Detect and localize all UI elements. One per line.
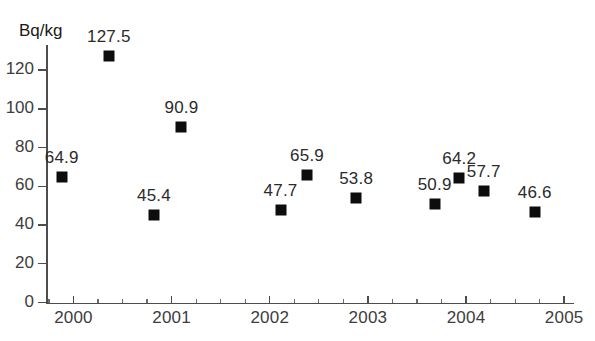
- x-tick-2001: [171, 296, 172, 303]
- y-axis-line: [46, 45, 48, 304]
- x-tick-label-2005: 2005: [545, 308, 584, 328]
- data-point-marker: [56, 171, 67, 182]
- x-tick-label-2003: 2003: [349, 308, 388, 328]
- scatter-chart: Bq/kg 020406080100120 200020012002200320…: [0, 0, 595, 341]
- x-tick-minor: [539, 299, 540, 303]
- data-point-marker: [529, 207, 540, 218]
- data-point-label: 64.9: [45, 148, 79, 168]
- y-tick-20: [38, 263, 46, 264]
- x-axis-line: [46, 303, 574, 305]
- x-tick-label-2001: 2001: [152, 308, 191, 328]
- y-tick-0: [38, 302, 46, 303]
- x-tick-minor: [97, 299, 98, 303]
- x-tick-2004: [465, 296, 466, 303]
- x-tick-minor: [318, 299, 319, 303]
- y-tick-label-100: 100: [0, 98, 34, 118]
- data-point-label: 57.7: [467, 162, 501, 182]
- data-point-marker: [148, 209, 159, 220]
- x-tick-minor: [416, 299, 417, 303]
- data-point-label: 127.5: [87, 27, 131, 47]
- x-tick-minor: [490, 299, 491, 303]
- x-tick-2002: [269, 296, 270, 303]
- y-tick-40: [38, 224, 46, 225]
- y-tick-120: [38, 69, 46, 70]
- x-tick-minor: [392, 299, 393, 303]
- data-point-label: 46.6: [518, 183, 552, 203]
- x-tick-minor: [48, 299, 49, 303]
- x-tick-minor: [441, 299, 442, 303]
- y-axis-unit-label: Bq/kg: [19, 21, 62, 41]
- data-point-label: 50.9: [418, 175, 452, 195]
- x-tick-label-2000: 2000: [54, 308, 93, 328]
- x-tick-minor: [294, 299, 295, 303]
- x-tick-minor: [146, 299, 147, 303]
- x-tick-minor: [196, 299, 197, 303]
- x-tick-minor: [245, 299, 246, 303]
- x-tick-minor: [343, 299, 344, 303]
- x-tick-minor: [122, 299, 123, 303]
- data-point-marker: [478, 185, 489, 196]
- x-tick-2005: [563, 296, 564, 303]
- x-tick-minor: [220, 299, 221, 303]
- data-point-marker: [275, 205, 286, 216]
- y-tick-label-40: 40: [0, 214, 34, 234]
- y-tick-label-80: 80: [0, 137, 34, 157]
- data-point-marker: [454, 173, 465, 184]
- x-tick-label-2002: 2002: [250, 308, 289, 328]
- data-point-marker: [176, 121, 187, 132]
- data-point-label: 90.9: [164, 98, 198, 118]
- data-point-marker: [429, 198, 440, 209]
- x-tick-label-2004: 2004: [447, 308, 486, 328]
- y-tick-label-0: 0: [0, 292, 34, 312]
- y-tick-label-120: 120: [0, 59, 34, 79]
- data-point-label: 45.4: [137, 186, 171, 206]
- y-tick-label-20: 20: [0, 253, 34, 273]
- x-tick-minor: [515, 299, 516, 303]
- data-point-label: 47.7: [264, 181, 298, 201]
- data-point-marker: [302, 169, 313, 180]
- data-point-label: 53.8: [339, 169, 373, 189]
- y-tick-label-60: 60: [0, 175, 34, 195]
- data-point-marker: [103, 50, 114, 61]
- data-point-marker: [351, 193, 362, 204]
- x-tick-2000: [73, 296, 74, 303]
- data-point-label: 65.9: [290, 146, 324, 166]
- y-tick-60: [38, 186, 46, 187]
- x-tick-2003: [367, 296, 368, 303]
- y-tick-100: [38, 108, 46, 109]
